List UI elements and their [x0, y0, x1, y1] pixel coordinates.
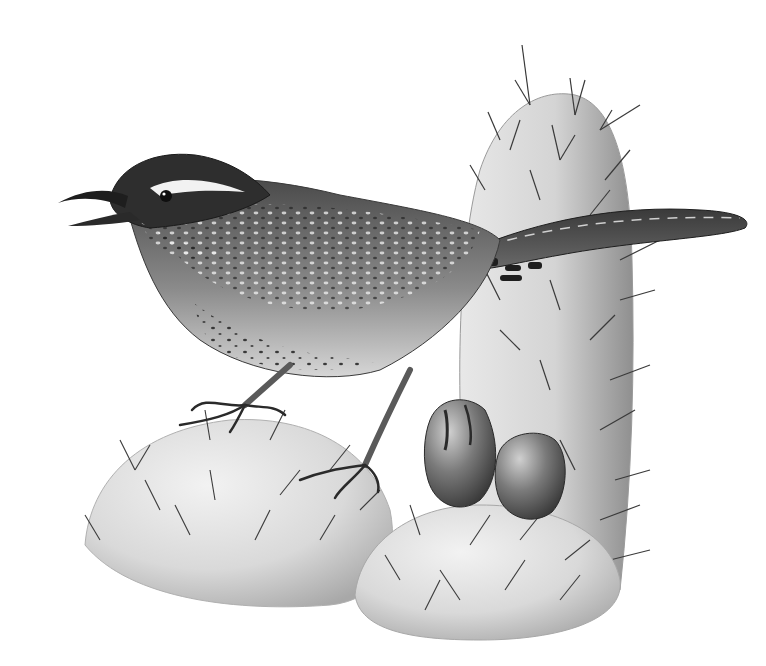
fruit-left	[424, 400, 495, 507]
illustration-canvas	[0, 0, 766, 666]
beak-lower	[68, 212, 140, 226]
cactus-wren-drawing	[0, 0, 766, 666]
fruit-right	[495, 433, 565, 519]
bird-eye	[160, 190, 172, 202]
left-cactus-pad	[85, 410, 393, 607]
